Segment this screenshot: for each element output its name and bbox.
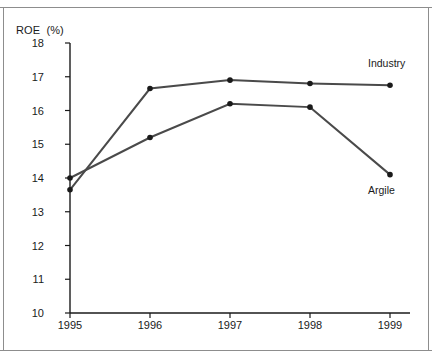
y-tick-label: 18 xyxy=(22,37,44,49)
y-tick-label: 10 xyxy=(22,307,44,319)
y-tick-label: 11 xyxy=(22,273,44,285)
y-tick-label-text: 10 xyxy=(22,307,44,319)
y-tick-label: 17 xyxy=(22,71,44,83)
data-point-industry-1996 xyxy=(147,86,153,92)
data-point-argile-1998 xyxy=(307,104,313,110)
x-tick-label: 1997 xyxy=(205,319,255,331)
y-tick-label: 13 xyxy=(22,206,44,218)
chart-figure: ROE (%) 101112131415161718 1995199619971… xyxy=(0,0,432,359)
x-tick-label: 1995 xyxy=(45,319,95,331)
y-tick-label-text: 15 xyxy=(22,138,44,150)
x-tick-label: 1999 xyxy=(365,319,415,331)
plot-area xyxy=(0,0,432,359)
y-tick-label: 15 xyxy=(22,138,44,150)
y-tick-label: 14 xyxy=(22,172,44,184)
y-tick-label: 12 xyxy=(22,240,44,252)
series-group xyxy=(67,77,393,192)
x-tick-label: 1998 xyxy=(285,319,335,331)
data-point-industry-1999 xyxy=(387,82,393,88)
series-line-argile xyxy=(70,104,390,178)
y-tick-label-text: 17 xyxy=(22,71,44,83)
data-point-industry-1998 xyxy=(307,81,313,87)
data-point-argile-1999 xyxy=(387,172,393,178)
y-tick-label-text: 12 xyxy=(22,240,44,252)
data-point-industry-1997 xyxy=(227,77,233,83)
y-tick-label-text: 11 xyxy=(22,273,44,285)
data-point-argile-1996 xyxy=(147,135,153,141)
series-label-industry: Industry xyxy=(368,57,405,69)
data-point-argile-1997 xyxy=(227,101,233,107)
y-tick-label-text: 16 xyxy=(22,105,44,117)
data-point-industry-1995 xyxy=(67,187,73,193)
data-point-argile-1995 xyxy=(67,175,73,181)
y-tick-label-text: 13 xyxy=(22,206,44,218)
x-tick-label: 1996 xyxy=(125,319,175,331)
series-label-argile: Argile xyxy=(368,184,395,196)
y-tick-label-text: 14 xyxy=(22,172,44,184)
y-tick-label: 16 xyxy=(22,105,44,117)
y-tick-label-text: 18 xyxy=(22,37,44,49)
